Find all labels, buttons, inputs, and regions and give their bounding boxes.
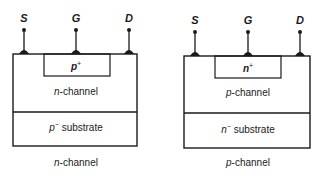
terminal-label: D: [125, 12, 133, 24]
contact-icon: [295, 52, 305, 56]
contact-icon: [19, 50, 29, 54]
contact-icon: [71, 50, 81, 54]
terminal-source: S: [190, 14, 200, 56]
terminal-dot-icon: [193, 30, 197, 34]
terminal-gate: G: [243, 14, 253, 56]
terminal-gate: G: [71, 12, 81, 54]
channel-region-label: n-channel: [54, 86, 98, 97]
terminal-source: S: [19, 12, 29, 54]
channel-region-label: p-channel: [225, 87, 270, 98]
terminal-dot-icon: [298, 30, 302, 34]
device-n-channel: S G D p+ n-channel p− substrate n-channe…: [13, 12, 137, 168]
device-caption: n-channel: [54, 157, 98, 168]
contact-icon: [190, 52, 200, 56]
terminal-label: G: [72, 12, 81, 24]
terminal-dot-icon: [22, 28, 26, 32]
substrate-region-label: p− substrate: [48, 121, 103, 133]
terminal-dot-icon: [127, 28, 131, 32]
terminal-label: S: [20, 12, 28, 24]
device-caption: p-channel: [225, 157, 270, 168]
substrate-region-label: n− substrate: [221, 123, 275, 135]
terminal-drain: D: [124, 12, 134, 54]
contact-icon: [243, 52, 253, 56]
terminal-dot-icon: [74, 28, 78, 32]
terminal-label: D: [296, 14, 304, 26]
gate-region-label: n+: [243, 62, 253, 74]
terminal-label: G: [244, 14, 253, 26]
terminal-dot-icon: [246, 30, 250, 34]
terminal-drain: D: [295, 14, 305, 56]
contact-icon: [124, 50, 134, 54]
device-p-channel: S G D n+ p-channel n− substrate p-channe…: [184, 14, 310, 168]
gate-region-label: p+: [70, 60, 81, 72]
terminal-label: S: [191, 14, 199, 26]
jfet-diagram: S G D p+ n-channel p− substrate n-channe…: [0, 0, 317, 180]
